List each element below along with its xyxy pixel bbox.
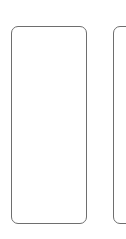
card-right[interactable]: [113, 26, 126, 224]
card-left[interactable]: [11, 26, 87, 224]
